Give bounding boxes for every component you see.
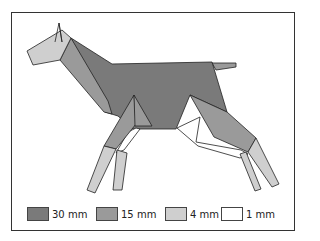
- tail: [212, 63, 236, 70]
- legend-item-15mm: 15 mm: [96, 205, 156, 223]
- swatch-4mm: [165, 207, 187, 221]
- legend: 30 mm 15 mm 4 mm 1 mm: [27, 205, 277, 223]
- legend-label: 1 mm: [246, 209, 275, 220]
- legend-item-1mm: 1 mm: [221, 205, 275, 223]
- front-leg-lower-a: [87, 146, 116, 193]
- legend-item-30mm: 30 mm: [27, 205, 87, 223]
- swatch-1mm: [221, 207, 243, 221]
- legend-label: 15 mm: [121, 209, 156, 220]
- legend-label: 4 mm: [190, 209, 219, 220]
- swatch-30mm: [27, 207, 49, 221]
- legend-label: 30 mm: [52, 209, 87, 220]
- front-leg-lower-b: [113, 150, 127, 190]
- swatch-15mm: [96, 207, 118, 221]
- legend-item-4mm: 4 mm: [165, 205, 219, 223]
